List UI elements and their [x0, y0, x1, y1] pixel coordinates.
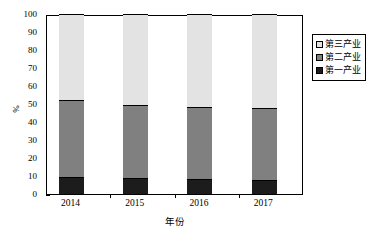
legend-item-label: 第一产业 [325, 64, 361, 77]
y-axis-tick-label: 20 [28, 153, 37, 164]
stacked-bar-chart: % 0102030405060708090100 201420152016201… [0, 0, 389, 244]
y-axis-tick-label: 50 [28, 99, 37, 110]
bar-2016 [187, 14, 212, 194]
legend-item: 第二产业 [316, 51, 361, 64]
bar-segment-primary [59, 177, 84, 194]
y-axis-tick-label: 10 [28, 171, 37, 182]
bar-segment-secondary [252, 108, 277, 181]
y-axis-tick-mark [46, 195, 50, 196]
bar-segment-secondary [59, 100, 84, 177]
secondary-swatch-icon [316, 54, 323, 61]
bar-segment-primary [252, 180, 277, 194]
plot-area [46, 15, 303, 195]
bar-segment-tertiary [123, 14, 148, 105]
y-axis-tick-label: 80 [28, 45, 37, 56]
y-axis-tick-label: 30 [28, 135, 37, 146]
x-axis-tick-label-2016: 2016 [174, 198, 224, 208]
primary-swatch-icon [316, 67, 323, 74]
bar-segment-tertiary [252, 14, 277, 108]
x-axis-tick-mark [239, 194, 240, 198]
bar-segment-secondary [123, 105, 148, 178]
legend-item: 第一产业 [316, 64, 361, 77]
bar-2015 [123, 14, 148, 194]
legend-item: 第三产业 [316, 38, 361, 51]
y-axis-title: % [11, 99, 21, 119]
x-axis-tick-mark [175, 194, 176, 198]
y-axis-tick-label: 60 [28, 81, 37, 92]
tertiary-swatch-icon [316, 41, 323, 48]
bar-segment-primary [123, 178, 148, 194]
y-axis-tick-label: 90 [28, 27, 37, 38]
bar-segment-primary [187, 179, 212, 194]
x-axis-title: 年份 [46, 214, 303, 228]
legend-item-label: 第三产业 [325, 38, 361, 51]
x-axis-tick-label-2015: 2015 [110, 198, 160, 208]
bar-2014 [59, 14, 84, 194]
x-axis-tick-mark [110, 194, 111, 198]
bar-segment-tertiary [59, 14, 84, 100]
bar-2017 [252, 14, 277, 194]
x-axis-tick-label-2017: 2017 [238, 198, 288, 208]
y-axis-tick-label: 40 [28, 117, 37, 128]
x-axis-tick-label-2014: 2014 [45, 198, 95, 208]
y-axis-tick-label: 0 [33, 189, 38, 200]
legend: 第三产业第二产业第一产业 [312, 34, 366, 81]
y-axis-tick-label: 70 [28, 63, 37, 74]
y-axis-tick-label: 100 [24, 9, 38, 20]
bar-segment-secondary [187, 107, 212, 179]
bar-segment-tertiary [187, 14, 212, 107]
legend-item-label: 第二产业 [325, 51, 361, 64]
